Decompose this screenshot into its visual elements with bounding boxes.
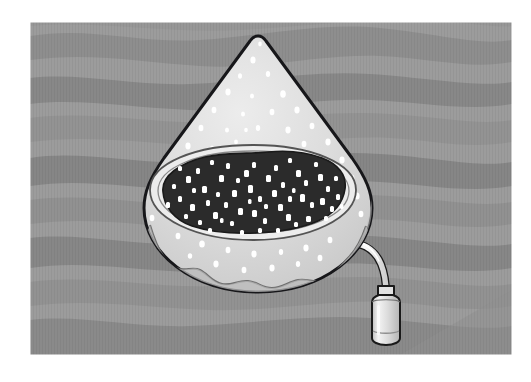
figure-root [0, 0, 531, 382]
vial-body [372, 295, 400, 345]
illustration-svg [0, 0, 531, 382]
vial-highlight [377, 305, 380, 335]
